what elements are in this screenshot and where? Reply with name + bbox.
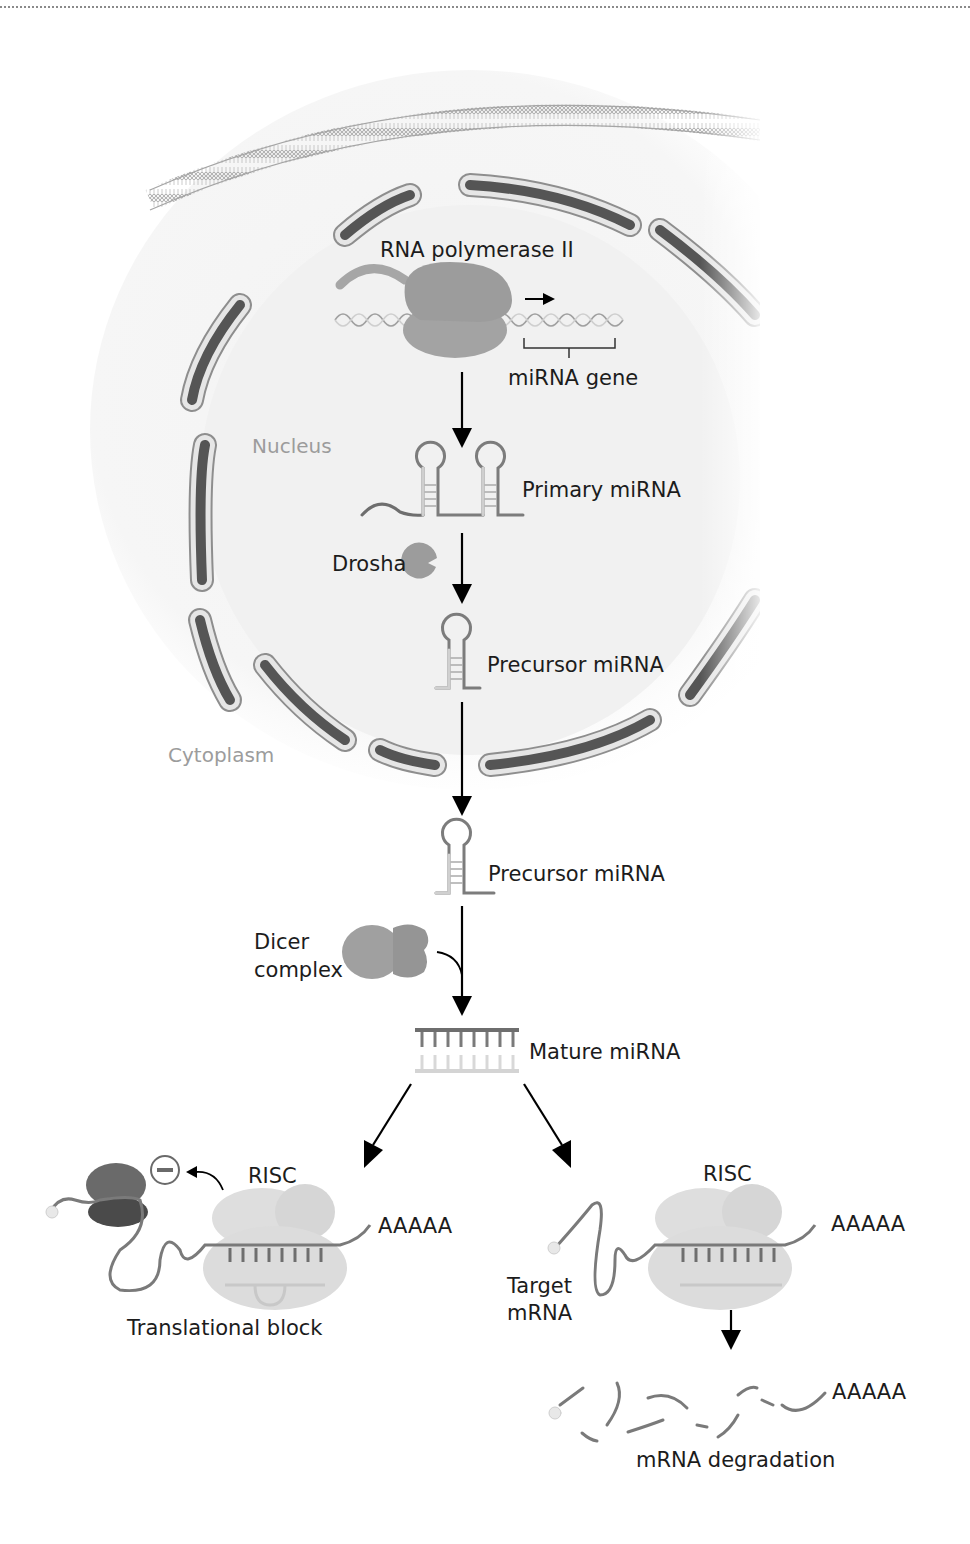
polya-left-label: AAAAA — [378, 1216, 452, 1237]
translational-block-icon — [46, 1156, 370, 1310]
degraded-mrna-icon — [549, 1383, 825, 1441]
primary-mirna-label: Primary miRNA — [522, 480, 681, 501]
precursor-mirna-cytoplasm-icon — [436, 819, 494, 893]
precursor-mirna-cytoplasm-label: Precursor miRNA — [488, 864, 665, 885]
mirna-pathway-diagram — [0, 0, 970, 1544]
dicer-label-line1: Dicer — [254, 932, 309, 953]
risc-left-label: RISC — [248, 1166, 297, 1187]
mature-mirna-icon — [415, 1030, 519, 1071]
nucleus-label: Nucleus — [252, 436, 332, 456]
target-mrna-risc-icon — [548, 1184, 815, 1310]
target-mrna-label-line2: mRNA — [507, 1303, 572, 1324]
dicer-complex-icon — [342, 924, 462, 979]
mature-mirna-label: Mature miRNA — [529, 1042, 680, 1063]
translational-block-label: Translational block — [127, 1318, 323, 1339]
drosha-icon — [401, 543, 437, 579]
precursor-mirna-nucleus-label: Precursor miRNA — [487, 655, 664, 676]
risc-right-label: RISC — [703, 1164, 752, 1185]
polya-degraded-label: AAAAA — [832, 1382, 906, 1403]
mrna-degradation-label: mRNA degradation — [636, 1450, 835, 1471]
mirna-gene-label: miRNA gene — [508, 368, 638, 389]
cytoplasm-label: Cytoplasm — [168, 745, 274, 765]
rna-polymerase-label: RNA polymerase II — [380, 240, 574, 261]
target-mrna-label-line1: Target — [507, 1276, 572, 1297]
drosha-label: Drosha — [332, 554, 406, 575]
dicer-label-line2: complex — [254, 960, 343, 981]
polya-right-label: AAAAA — [831, 1214, 905, 1235]
